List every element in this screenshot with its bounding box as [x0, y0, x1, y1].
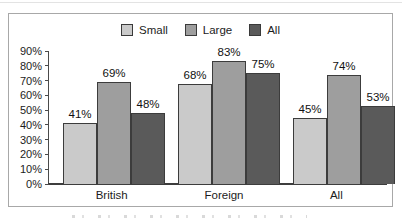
bar-value-label: 83%: [217, 46, 240, 58]
legend-label: Large: [203, 24, 232, 36]
y-axis-tick: 80%: [12, 60, 49, 72]
y-axis-tick-mark: [45, 95, 49, 96]
x-axis-labels: BritishForeignAll: [48, 189, 386, 201]
bar-group-british: 41%69%48%: [63, 82, 165, 184]
bar-foreign-all: 75%: [246, 73, 280, 184]
y-axis-tick-label: 10%: [12, 163, 42, 175]
x-axis-category-label-all: All: [287, 189, 386, 201]
y-axis-tick-mark: [45, 184, 49, 185]
bar-value-label: 75%: [251, 58, 274, 70]
legend: SmallLargeAll: [9, 24, 392, 36]
bar-group-foreign: 68%83%75%: [178, 61, 280, 184]
plot-area: 41%69%48%68%83%75%45%74%53% 90%80%70%60%…: [48, 51, 386, 184]
y-axis-tick-mark: [45, 80, 49, 81]
bar-british-large: 69%: [97, 82, 131, 184]
bar-all-small: 45%: [293, 118, 327, 185]
y-axis-tick-label: 40%: [12, 119, 42, 131]
y-axis-tick-mark: [45, 169, 49, 170]
y-axis-tick: 30%: [12, 134, 49, 146]
y-axis-tick-label: 60%: [12, 89, 42, 101]
y-axis-tick-mark: [45, 154, 49, 155]
legend-item-all: All: [249, 24, 280, 36]
bar-group-all: 45%74%53%: [293, 75, 395, 184]
bar-value-label: 53%: [366, 91, 389, 103]
y-axis-tick: 10%: [12, 163, 49, 175]
legend-swatch: [249, 24, 261, 36]
bar-value-label: 41%: [68, 108, 91, 120]
cropped-caption-artifact: [72, 215, 307, 218]
x-axis-category-label-british: British: [62, 189, 161, 201]
y-axis-tick-mark: [45, 139, 49, 140]
bar-value-label: 45%: [298, 103, 321, 115]
y-axis-tick: 60%: [12, 89, 49, 101]
bar-all-all: 53%: [361, 106, 395, 184]
bar-value-label: 74%: [332, 60, 355, 72]
legend-swatch: [185, 24, 197, 36]
bar-all-large: 74%: [327, 75, 361, 184]
legend-item-small: Small: [121, 24, 168, 36]
y-axis-tick: 40%: [12, 119, 49, 131]
y-axis-tick-label: 70%: [12, 75, 42, 87]
bar-foreign-small: 68%: [178, 84, 212, 184]
chart-frame: SmallLargeAll 41%69%48%68%83%75%45%74%53…: [8, 13, 393, 207]
y-axis-tick: 20%: [12, 148, 49, 160]
y-axis-tick-mark: [45, 110, 49, 111]
legend-label: All: [267, 24, 280, 36]
y-axis-tick-mark: [45, 124, 49, 125]
bars-row: 41%69%48%68%83%75%45%74%53%: [49, 51, 386, 184]
legend-label: Small: [139, 24, 168, 36]
y-axis-tick-label: 80%: [12, 60, 42, 72]
bar-british-small: 41%: [63, 123, 97, 184]
y-axis-tick-label: 90%: [12, 45, 42, 57]
bar-value-label: 68%: [183, 69, 206, 81]
legend-item-large: Large: [185, 24, 232, 36]
y-axis-tick-mark: [45, 65, 49, 66]
y-axis-tick-label: 50%: [12, 104, 42, 116]
chart-image: SmallLargeAll 41%69%48%68%83%75%45%74%53…: [0, 0, 402, 220]
y-axis-tick: 90%: [12, 45, 49, 57]
y-axis-tick: 50%: [12, 104, 49, 116]
bar-value-label: 69%: [102, 67, 125, 79]
bar-value-label: 48%: [136, 98, 159, 110]
y-axis-tick: 70%: [12, 75, 49, 87]
legend-swatch: [121, 24, 133, 36]
x-axis-category-label-foreign: Foreign: [174, 189, 273, 201]
bar-british-all: 48%: [131, 113, 165, 184]
y-axis-tick: 0%: [12, 178, 49, 190]
scan-artifact-line: [0, 2, 402, 3]
y-axis-tick-label: 0%: [12, 178, 42, 190]
y-axis-tick-mark: [45, 51, 49, 52]
y-axis-tick-label: 30%: [12, 134, 42, 146]
y-axis-tick-label: 20%: [12, 148, 42, 160]
bar-foreign-large: 83%: [212, 61, 246, 184]
